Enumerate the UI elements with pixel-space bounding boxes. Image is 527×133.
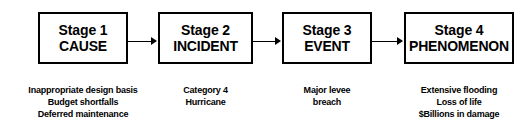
stage-2-caption: Category 4 Hurricane — [158, 84, 253, 108]
stage-1-caption: Inappropriate design basis Budget shortf… — [0, 84, 166, 120]
caption-line: breach — [282, 96, 372, 108]
stage-4-number: Stage 4 — [434, 22, 483, 38]
stage-3-name: EVENT — [304, 38, 350, 55]
caption-line: Category 4 — [158, 84, 253, 96]
caption-line: Loss of life — [394, 96, 524, 108]
caption-line: Major levee — [282, 84, 372, 96]
stage-4-name: PHENOMENON — [409, 38, 509, 55]
stage-2-name: INCIDENT — [173, 38, 238, 55]
caption-line: Inappropriate design basis — [0, 84, 166, 96]
arrow-right-icon-2 — [253, 37, 282, 46]
arrow-shaft — [372, 41, 398, 42]
caption-line: Extensive flooding — [394, 84, 524, 96]
stage-box-1: Stage 1 CAUSE — [38, 12, 128, 64]
stage-1-number: Stage 1 — [58, 22, 107, 38]
arrow-right-icon-3 — [372, 37, 404, 46]
arrow-shaft — [253, 41, 276, 42]
stage-2-number: Stage 2 — [181, 22, 230, 38]
stage-4-caption: Extensive flooding Loss of life $Billion… — [394, 84, 524, 120]
stage-box-4: Stage 4 PHENOMENON — [404, 12, 514, 64]
caption-line: $Billions in damage — [394, 108, 524, 120]
caption-line: Hurricane — [158, 96, 253, 108]
arrow-shaft — [128, 41, 152, 42]
arrow-head — [397, 37, 403, 45]
caption-line: Deferred maintenance — [0, 108, 166, 120]
stage-box-3: Stage 3 EVENT — [282, 12, 372, 64]
stage-3-number: Stage 3 — [302, 22, 351, 38]
caption-line: Budget shortfalls — [0, 96, 166, 108]
arrow-head — [275, 37, 281, 45]
flow-diagram: Stage 1 CAUSE Stage 2 INCIDENT Stage 3 E… — [0, 0, 527, 133]
stage-1-name: CAUSE — [59, 38, 107, 55]
arrow-right-icon-1 — [128, 37, 158, 46]
arrow-head — [151, 37, 157, 45]
stage-3-caption: Major levee breach — [282, 84, 372, 108]
stage-box-2: Stage 2 INCIDENT — [158, 12, 253, 64]
